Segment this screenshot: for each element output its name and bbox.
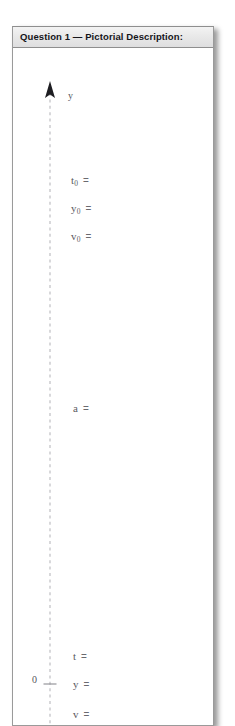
variable-label-y: y= bbox=[73, 679, 89, 690]
variable-equals: = bbox=[78, 403, 89, 414]
variable-equals: = bbox=[79, 679, 90, 690]
variable-subscript: 0 bbox=[77, 207, 81, 216]
variable-label-t: t= bbox=[73, 651, 87, 662]
variable-equals: = bbox=[81, 231, 92, 242]
panel-body: y 0 t0=y0=v0=a=t=y=v= bbox=[13, 49, 213, 725]
variable-label-v0: v0= bbox=[71, 231, 91, 242]
variable-label-t0: t0= bbox=[71, 175, 89, 186]
origin-label: 0 bbox=[32, 674, 37, 685]
panel-header: Question 1 — Pictorial Description: bbox=[13, 27, 213, 48]
variable-equals: = bbox=[79, 709, 90, 720]
axis-drawing bbox=[13, 49, 213, 725]
variable-symbol: y bbox=[73, 678, 79, 690]
question-panel: Question 1 — Pictorial Description: y 0 … bbox=[12, 26, 214, 726]
variable-subscript: 0 bbox=[74, 179, 78, 188]
variable-subscript: 0 bbox=[77, 235, 81, 244]
variable-label-a: a= bbox=[73, 403, 89, 414]
y-axis-label: y bbox=[68, 90, 73, 101]
variable-symbol: v bbox=[73, 708, 79, 720]
variable-symbol: v bbox=[71, 230, 77, 242]
variable-equals: = bbox=[78, 175, 89, 186]
variable-symbol: y bbox=[71, 202, 77, 214]
pictorial-diagram: y 0 t0=y0=v0=a=t=y=v= bbox=[13, 49, 213, 725]
variable-equals: = bbox=[76, 651, 87, 662]
variable-equals: = bbox=[81, 203, 92, 214]
variable-label-y0: y0= bbox=[71, 203, 91, 214]
variable-label-v: v= bbox=[73, 709, 89, 720]
panel-title: Question 1 — Pictorial Description: bbox=[20, 31, 183, 42]
